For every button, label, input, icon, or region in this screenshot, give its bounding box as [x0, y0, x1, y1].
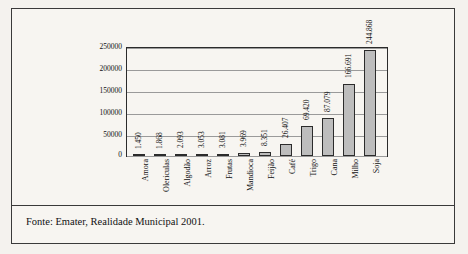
chart-area: 250000 200000 150000 100000 50000 0 1.45… — [12, 9, 456, 205]
bar-value-label: 3.969 — [240, 130, 248, 147]
y-tick-label: 100000 — [100, 109, 123, 117]
x-tick-label: Trigo — [309, 159, 318, 177]
x-tick-label: Amora — [141, 159, 150, 181]
bar-value-label: 2.093 — [177, 131, 185, 148]
bar-value-label: 26.407 — [282, 117, 290, 138]
bar-value-label: 3.081 — [219, 131, 227, 148]
x-tick-label: Cana — [330, 159, 339, 175]
bar — [280, 144, 292, 156]
bar — [196, 154, 208, 156]
bar-value-label: 1.868 — [156, 132, 164, 149]
figure-frame: 250000 200000 150000 100000 50000 0 1.45… — [11, 8, 455, 244]
x-tick-label: Algodão — [183, 159, 192, 187]
x-tick-label: Café — [288, 159, 297, 174]
gridline — [127, 156, 387, 157]
x-tick-label: Frutas — [225, 159, 234, 179]
bar — [238, 153, 250, 156]
bar-value-label: 244.868 — [366, 20, 374, 44]
y-tick-label: 50000 — [103, 131, 122, 139]
bar — [217, 154, 229, 156]
bar-value-label: 166.691 — [345, 54, 353, 78]
bar — [364, 50, 376, 156]
bar — [322, 118, 334, 156]
y-tick-label: 250000 — [100, 43, 123, 51]
x-tick-label: Feijão — [267, 159, 276, 179]
y-tick-label: 150000 — [100, 87, 123, 95]
bar — [343, 84, 355, 156]
x-axis-categories: Amora Olericulas Algodão Arroz Frutas Ma… — [127, 159, 387, 205]
bar — [133, 154, 145, 156]
bar-value-label: 8.351 — [261, 129, 269, 146]
bar-value-label: 1.450 — [135, 132, 143, 149]
bar — [175, 154, 187, 156]
bar — [259, 152, 271, 156]
y-axis-ticks: 250000 200000 150000 100000 50000 0 — [74, 47, 122, 157]
source-note: Fonte: Emater, Realidade Municipal 2001. — [26, 215, 205, 229]
x-tick-label: Milho — [351, 159, 360, 179]
y-tick-label: 0 — [118, 151, 122, 159]
figure-page: 250000 200000 150000 100000 50000 0 1.45… — [0, 0, 468, 254]
bar-value-label: 87.079 — [324, 91, 332, 112]
caption-divider — [12, 205, 454, 206]
bar-value-label: 3.053 — [198, 131, 206, 148]
bar-series: 1.450 1.868 2.093 3.053 3.081 — [127, 48, 387, 156]
bar — [154, 154, 166, 156]
x-tick-label: Mandioca — [246, 159, 255, 191]
x-tick-label: Arroz — [204, 159, 213, 178]
x-tick-label: Olericulas — [162, 159, 171, 192]
bar-value-label: 69.420 — [303, 99, 311, 120]
y-tick-label: 200000 — [100, 65, 123, 73]
bar — [301, 126, 313, 156]
x-tick-label: Soja — [372, 159, 381, 173]
